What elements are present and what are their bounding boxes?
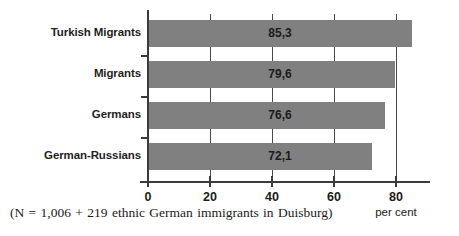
category-label-germans: Germans [6, 108, 141, 120]
y-axis-tick [141, 137, 148, 139]
x-tick-label-60: 60 [314, 190, 354, 204]
category-label-turkish-migrants: Turkish Migrants [6, 26, 141, 38]
y-axis-tick [141, 96, 148, 98]
x-axis-tick [395, 176, 397, 187]
x-axis-tick [271, 176, 273, 187]
x-tick-label-80: 80 [376, 190, 416, 204]
x-tick-label-40: 40 [252, 190, 292, 204]
chart-caption: (N = 1,006 + 219 ethnic German immigrant… [10, 205, 332, 221]
category-axis-labels: Turkish Migrants Migrants Germans German… [0, 0, 141, 236]
x-axis-tick [147, 176, 149, 187]
x-tick-label-0: 0 [128, 190, 168, 204]
x-tick-label-20: 20 [190, 190, 230, 204]
value-label-german-russians: 72,1 [250, 149, 310, 163]
bar-chart-figure: Turkish Migrants Migrants Germans German… [0, 0, 459, 236]
x-axis-line [140, 181, 430, 183]
x-axis-tick [333, 176, 335, 187]
value-label-migrants: 79,6 [250, 67, 310, 81]
category-label-migrants: Migrants [6, 67, 141, 79]
x-axis-tick [209, 176, 211, 187]
category-label-german-russians: German-Russians [6, 149, 141, 161]
value-label-turkish-migrants: 85,3 [250, 26, 310, 40]
axis-unit-label: per cent [356, 206, 436, 218]
value-label-germans: 76,6 [250, 108, 310, 122]
y-axis-tick [141, 55, 148, 57]
